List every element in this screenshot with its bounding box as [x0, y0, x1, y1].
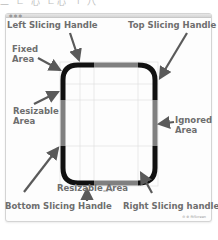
label-left-slicing-handle: Left Slicing Handle [7, 20, 98, 30]
label-right-slicing-handle: Right Slicing handle [123, 201, 218, 211]
arrow-bottom-slicing-handle [24, 148, 58, 192]
arrow-ignored-area [159, 122, 174, 124]
bottom-left-fixed-corner [63, 146, 94, 183]
top-right-fixed-corner [138, 65, 155, 100]
label-fixed-area: Fixed Area [12, 44, 38, 64]
arrow-resizable-area-left [34, 92, 58, 104]
arrow-fixed-area [38, 58, 60, 70]
rounded-rect-outline [63, 65, 155, 183]
label-bottom-slicing-handle: Bottom Slicing Handle [5, 201, 112, 211]
arrow-left-slicing-handle [70, 33, 79, 60]
arrow-top-slicing-handle [160, 33, 187, 78]
label-ignored-area: Ignored Area [175, 115, 212, 135]
label-top-slicing-handle: Top Slicing Handle [128, 20, 216, 30]
label-resizable-area-left: Resizable Area [13, 106, 59, 126]
bottom-right-fixed-corner [138, 146, 155, 183]
label-resizable-area-bottom: Resizable Area [57, 183, 128, 193]
top-left-fixed-corner [63, 65, 94, 100]
slice-grid [60, 62, 158, 186]
